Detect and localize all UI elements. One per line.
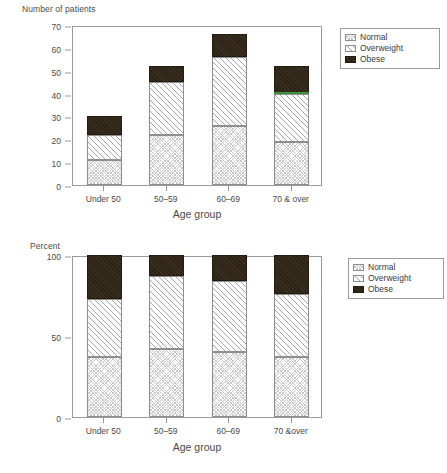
bar-segment-normal: [149, 135, 184, 185]
x-tick-label: 60–69: [216, 426, 240, 436]
y-tick-label: 0: [56, 414, 61, 424]
bar-segment-overweight: [274, 294, 309, 357]
x-tick-mark: [166, 186, 167, 191]
bar-segment-normal: [274, 142, 309, 185]
y-tick-label: 100: [47, 252, 61, 262]
y-axis-title: Percent: [30, 241, 60, 251]
legend-item-obese[interactable]: Obese: [353, 284, 438, 295]
bar-segment-obese: [149, 66, 184, 82]
bar-segment-overweight: [212, 281, 247, 352]
bar-stack: [87, 25, 122, 185]
x-tick-label: 50–59: [154, 194, 178, 204]
x-tick-mark: [103, 186, 104, 191]
legend-swatch-obese-icon: [353, 286, 364, 293]
y-tick-label: 50: [52, 333, 61, 343]
bar-stack: [149, 25, 184, 185]
bar-segment-normal: [212, 352, 247, 417]
bar-stack: [149, 255, 184, 417]
legend-item-normal[interactable]: Normal: [345, 32, 434, 43]
y-tick-label: 60: [52, 45, 61, 55]
bar-segment-overweight: [274, 94, 309, 142]
legend-item-overweight[interactable]: Overweight: [345, 43, 434, 54]
legend-label: Obese: [360, 54, 385, 65]
bar-segment-obese: [274, 255, 309, 294]
bar-segment-obese: [87, 255, 122, 299]
x-tick-mark: [228, 418, 229, 423]
y-tick-mark: [65, 49, 71, 50]
legend-swatch-normal-icon: [353, 264, 364, 271]
legend-swatch-overweight-icon: [345, 45, 356, 52]
bar-segment-normal: [87, 357, 122, 417]
bar-stack: [87, 255, 122, 417]
legend-swatch-overweight-icon: [353, 275, 364, 282]
bar-segment-normal: [212, 126, 247, 185]
legend-swatch-obese-icon: [345, 56, 356, 63]
bar-segment-normal: [274, 357, 309, 417]
bar-segment-overweight: [212, 57, 247, 126]
legend-label: Obese: [368, 284, 393, 295]
y-tick-mark: [65, 257, 71, 258]
y-tick-label: 10: [52, 159, 61, 169]
legend-label: Normal: [360, 32, 387, 43]
bar-segment-normal: [87, 160, 122, 185]
y-tick-label: 70: [52, 22, 61, 32]
bar-segment-overweight: [87, 135, 122, 160]
legend-swatch-normal-icon: [345, 34, 356, 41]
bar-segment-overweight: [149, 276, 184, 349]
y-tick-label: 0: [56, 182, 61, 192]
x-axis-title: Age group: [173, 441, 221, 453]
y-tick-mark: [65, 419, 71, 420]
bar-segment-overweight: [87, 299, 122, 357]
x-tick-label: Under 50: [86, 426, 121, 436]
bar-segment-obese: [212, 255, 247, 281]
y-tick-mark: [65, 338, 71, 339]
y-tick-mark: [65, 118, 71, 119]
legend-label: Overweight: [368, 273, 411, 284]
bar-stack: [274, 25, 309, 185]
y-tick-label: 30: [52, 113, 61, 123]
render-artifact-line: [274, 92, 309, 94]
legend-item-normal[interactable]: Normal: [353, 262, 438, 273]
bar-stack: [212, 25, 247, 185]
chart-number-of-patients: Number of patients 010203040506070 Under…: [0, 0, 447, 236]
y-tick-mark: [65, 141, 71, 142]
x-tick-mark: [291, 186, 292, 191]
y-tick-mark: [65, 27, 71, 28]
plot-area: 010203040506070: [72, 26, 322, 186]
plot-area: 050100: [72, 256, 322, 418]
y-tick-label: 40: [52, 91, 61, 101]
x-axis-title: Age group: [173, 208, 221, 220]
bar-segment-obese: [274, 66, 309, 93]
bar-stack: [274, 255, 309, 417]
bar-segment-obese: [87, 116, 122, 134]
x-tick-label: 50–59: [154, 426, 178, 436]
bar-segment-normal: [149, 349, 184, 417]
y-tick-mark: [65, 72, 71, 73]
chart-percent: Percent 050100 Under 5050–5960–6970 &ove…: [0, 236, 447, 473]
x-tick-mark: [103, 418, 104, 423]
y-tick-mark: [65, 164, 71, 165]
x-tick-mark: [228, 186, 229, 191]
legend-item-obese[interactable]: Obese: [345, 54, 434, 65]
legend-label: Normal: [368, 262, 395, 273]
bar-segment-obese: [212, 34, 247, 57]
legend-item-overweight[interactable]: Overweight: [353, 273, 438, 284]
y-tick-mark: [65, 187, 71, 188]
x-tick-mark: [166, 418, 167, 423]
x-tick-label: 70 &over: [274, 426, 308, 436]
x-tick-label: 70 & over: [273, 194, 309, 204]
y-axis-title: Number of patients: [22, 4, 96, 14]
x-tick-mark: [291, 418, 292, 423]
x-tick-label: Under 50: [86, 194, 121, 204]
legend-label: Overweight: [360, 43, 403, 54]
y-tick-mark: [65, 95, 71, 96]
y-tick-label: 20: [52, 136, 61, 146]
y-tick-label: 50: [52, 68, 61, 78]
bar-segment-obese: [149, 255, 184, 276]
bar-segment-overweight: [149, 82, 184, 135]
x-tick-label: 60–69: [216, 194, 240, 204]
legend: NormalOverweightObese: [348, 258, 444, 299]
bar-stack: [212, 255, 247, 417]
legend: NormalOverweightObese: [340, 28, 440, 69]
